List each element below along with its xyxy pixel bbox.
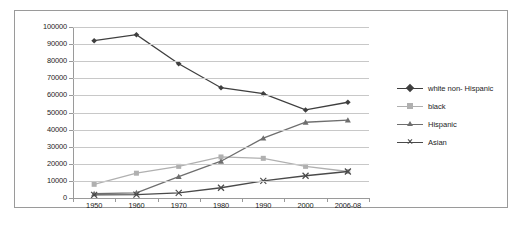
data-point-marker <box>92 182 97 187</box>
plot-area <box>73 27 369 198</box>
chart-legend: white non- HispanicblackHispanicAsian <box>397 79 505 151</box>
y-axis-tick: 20000 <box>47 160 67 168</box>
y-axis-tickmark <box>69 113 73 114</box>
y-axis-tickmark <box>69 95 73 96</box>
y-axis-tick: 50000 <box>47 109 67 117</box>
series-line <box>94 35 348 110</box>
gridline <box>73 164 369 165</box>
gridline <box>73 95 369 96</box>
y-axis-tickmark <box>69 61 73 62</box>
x-axis-tick: 1980 <box>213 201 229 210</box>
legend-item-square[interactable]: black <box>397 97 505 115</box>
data-point-marker <box>134 171 139 176</box>
plot-wrapper: 0100002000030000400005000060000700008000… <box>15 11 507 207</box>
legend-item-label: Hispanic <box>428 120 457 129</box>
gridline <box>73 147 369 148</box>
y-axis-tick: 40000 <box>47 126 67 134</box>
x-axis-tick: 1960 <box>128 201 144 210</box>
series-line <box>94 171 348 194</box>
y-axis-tick: 0 <box>63 194 67 202</box>
gridline <box>73 27 369 28</box>
y-axis-tickmark <box>69 147 73 148</box>
y-axis-tick: 70000 <box>47 74 67 82</box>
y-axis-tickmark <box>69 44 73 45</box>
gridline <box>73 181 369 182</box>
x-axis-tick: 2006-08 <box>335 201 361 210</box>
y-axis-tick: 90000 <box>47 40 67 48</box>
y-axis-tickmark <box>69 164 73 165</box>
legend-item-label: Asian <box>428 138 447 147</box>
y-axis-tickmark <box>69 78 73 79</box>
legend-marker-icon <box>397 119 423 129</box>
x-axis-tick: 2000 <box>298 201 314 210</box>
y-axis-tickmark <box>69 130 73 131</box>
legend-marker-icon <box>397 101 423 111</box>
legend-item-diamond[interactable]: white non- Hispanic <box>397 79 505 97</box>
legend-marker-icon <box>397 137 423 147</box>
legend-item-cross[interactable]: Asian <box>397 133 505 151</box>
data-point-marker <box>91 38 97 44</box>
data-point-marker <box>261 156 266 161</box>
y-axis-tickmark <box>69 181 73 182</box>
legend-item-label: white non- Hispanic <box>428 84 493 93</box>
y-axis-tick: 10000 <box>47 177 67 185</box>
y-axis-tick: 80000 <box>47 57 67 65</box>
legend-item-label: black <box>428 102 445 111</box>
y-axis-tick-labels: 0100002000030000400005000060000700008000… <box>15 11 71 209</box>
x-axis-line <box>73 198 369 199</box>
legend-marker-icon <box>397 83 423 93</box>
gridline <box>73 113 369 114</box>
gridline <box>73 44 369 45</box>
legend-item-triangle[interactable]: Hispanic <box>397 115 505 133</box>
figure-caption <box>26 226 496 235</box>
gridline <box>73 61 369 62</box>
x-axis-tick: 1970 <box>171 201 187 210</box>
y-axis-tickmark <box>69 27 73 28</box>
x-axis-tick: 1950 <box>86 201 102 210</box>
data-point-marker <box>345 99 351 105</box>
x-axis-tick-labels: 1950196019701980199020002006-08 <box>73 201 373 215</box>
x-axis-tick: 1990 <box>255 201 271 210</box>
gridline <box>73 130 369 131</box>
y-axis-tick: 100000 <box>43 23 67 31</box>
y-axis-tick: 60000 <box>47 91 67 99</box>
data-point-marker <box>218 85 224 91</box>
gridline <box>73 78 369 79</box>
y-axis-tick: 30000 <box>47 143 67 151</box>
chart-frame: 0100002000030000400005000060000700008000… <box>14 10 508 208</box>
